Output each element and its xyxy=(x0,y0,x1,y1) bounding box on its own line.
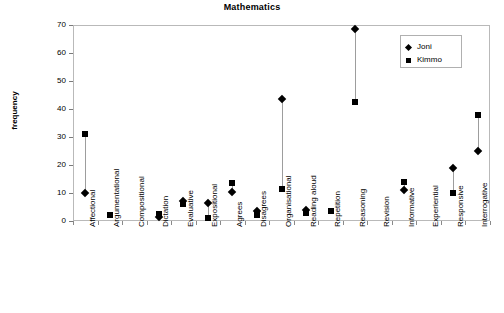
y-tick-label: 70 xyxy=(40,21,66,29)
y-tick-label: 10 xyxy=(40,189,66,197)
connector-line xyxy=(355,29,356,102)
legend-label-kimmo: Kimmo xyxy=(417,56,442,64)
data-point-kimmo xyxy=(279,186,285,192)
x-tick-mark xyxy=(392,221,393,225)
legend-label-joni: Joni xyxy=(417,43,432,51)
x-tick-label: Repetition xyxy=(334,191,342,227)
x-tick-label: Agrees xyxy=(236,202,244,227)
x-tick-mark xyxy=(318,221,319,225)
x-tick-mark xyxy=(343,221,344,225)
x-tick-mark xyxy=(220,221,221,225)
x-tick-label: Experiential xyxy=(432,185,440,227)
x-tick-mark xyxy=(490,221,491,225)
x-tick-label: Reasoning xyxy=(359,189,367,227)
data-point-kimmo xyxy=(229,180,235,186)
x-tick-mark xyxy=(294,221,295,225)
y-tick-label: 40 xyxy=(40,105,66,113)
x-tick-mark xyxy=(465,221,466,225)
y-tick-label: 60 xyxy=(40,49,66,57)
x-tick-label: Evaluative xyxy=(187,190,195,227)
x-tick-label: Disagrees xyxy=(260,191,268,227)
y-tick-label: 20 xyxy=(40,161,66,169)
y-tick-label: 30 xyxy=(40,133,66,141)
chart-title: Mathematics xyxy=(0,2,504,12)
x-tick-mark xyxy=(122,221,123,225)
mathematics-chart: Mathematics frequency 010203040506070 Af… xyxy=(0,0,504,313)
x-tick-label: Revision xyxy=(383,196,391,227)
x-tick-mark xyxy=(367,221,368,225)
data-point-kimmo xyxy=(205,215,211,221)
x-tick-mark xyxy=(245,221,246,225)
x-tick-label: Informative xyxy=(408,187,416,227)
data-point-kimmo xyxy=(82,131,88,137)
x-tick-label: Argumentational xyxy=(113,169,121,227)
x-tick-label: Compositional xyxy=(138,176,146,227)
x-tick-label: Interrogative xyxy=(481,183,489,227)
x-tick-label: Organisational xyxy=(285,175,293,227)
x-tick-label: Responsive xyxy=(457,185,465,227)
legend-entry-joni: Joni xyxy=(406,41,432,53)
data-point-kimmo xyxy=(475,112,481,118)
x-tick-mark xyxy=(196,221,197,225)
legend-entry-kimmo: Kimmo xyxy=(406,54,442,66)
legend: Joni Kimmo xyxy=(400,35,462,68)
x-tick-mark xyxy=(73,221,74,225)
data-point-kimmo xyxy=(450,190,456,196)
x-tick-mark xyxy=(147,221,148,225)
x-tick-mark xyxy=(269,221,270,225)
x-tick-label: Affectional xyxy=(89,190,97,227)
x-tick-mark xyxy=(171,221,172,225)
x-tick-mark xyxy=(441,221,442,225)
y-tick-label: 0 xyxy=(40,217,66,225)
connector-line xyxy=(478,115,479,151)
connector-line xyxy=(282,99,283,189)
square-marker-icon xyxy=(406,58,411,63)
y-tick-label: 50 xyxy=(40,77,66,85)
x-tick-mark xyxy=(416,221,417,225)
connector-line xyxy=(85,134,86,193)
x-tick-label: Reading aloud xyxy=(310,175,318,227)
diamond-marker-icon xyxy=(405,43,412,50)
y-axis-label: frequency xyxy=(10,76,19,146)
data-point-kimmo xyxy=(328,208,334,214)
data-point-kimmo xyxy=(107,212,113,218)
data-point-kimmo xyxy=(401,179,407,185)
x-tick-label: Dictation xyxy=(162,196,170,227)
x-tick-label: Expositional xyxy=(211,184,219,227)
x-tick-mark xyxy=(98,221,99,225)
data-point-kimmo xyxy=(352,99,358,105)
